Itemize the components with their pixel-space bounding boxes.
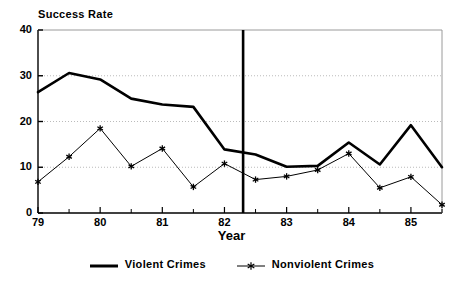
x-tick-label: 81: [147, 216, 177, 228]
legend-swatch-asterisk-line: [236, 258, 266, 270]
legend-label-nonviolent: Nonviolent Crimes: [272, 258, 374, 270]
x-tick-label: 82: [209, 216, 239, 228]
x-tick-label: 83: [272, 216, 302, 228]
chart-legend: Violent Crimes Nonviolent Crimes: [0, 258, 463, 270]
x-tick-label: 80: [85, 216, 115, 228]
x-tick-label: 79: [23, 216, 53, 228]
chart-figure: Success Rate 010203040 79808182838485 Ye…: [0, 0, 463, 289]
legend-entry-nonviolent: Nonviolent Crimes: [236, 258, 374, 270]
y-tick-label: 40: [2, 23, 32, 35]
y-tick-label: 20: [2, 115, 32, 127]
x-tick-label: 85: [396, 216, 426, 228]
x-axis-title: Year: [0, 228, 463, 243]
series-nonviolent-crimes: [35, 125, 445, 208]
legend-label-violent: Violent Crimes: [125, 258, 206, 270]
chart-plot-area: [0, 0, 463, 289]
gridlines: [38, 76, 442, 168]
legend-swatch-thick-line: [89, 258, 119, 270]
series-violent-crimes: [38, 73, 442, 167]
y-tick-label: 10: [2, 160, 32, 172]
x-tick-label: 84: [334, 216, 364, 228]
data-point-marker: [35, 179, 41, 185]
data-series-layer: [35, 73, 445, 208]
y-tick-label: 30: [2, 69, 32, 81]
data-point-marker: [222, 160, 228, 166]
legend-entry-violent: Violent Crimes: [89, 258, 206, 270]
